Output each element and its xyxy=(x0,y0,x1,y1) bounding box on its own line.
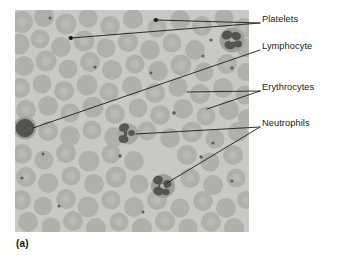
label-platelets: Platelets xyxy=(262,14,298,25)
label-neutrophils: Neutrophils xyxy=(262,118,310,129)
label-erythrocytes: Erythrocytes xyxy=(262,82,314,93)
leader-dot-platelets-2 xyxy=(69,36,73,40)
label-lymphocyte: Lymphocyte xyxy=(262,41,312,52)
leader-dot-platelets-1 xyxy=(154,18,158,22)
figure-panel-a: Platelets Lymphocyte Erythrocytes Neutro… xyxy=(0,0,337,262)
smear-field xyxy=(9,7,257,238)
panel-caption: (a) xyxy=(16,238,29,249)
blood-smear-micrograph xyxy=(0,0,337,262)
